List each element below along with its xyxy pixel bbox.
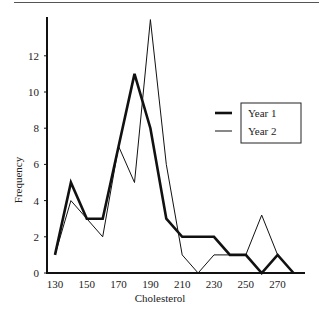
y-tick-label: 12 xyxy=(28,50,39,62)
legend-label: Year 2 xyxy=(248,125,277,137)
y-tick-label: 8 xyxy=(34,122,40,134)
x-tick-label: 150 xyxy=(79,278,96,290)
y-axis-label: Frequency xyxy=(12,156,24,203)
x-axis-label: Cholesterol xyxy=(135,292,186,304)
y-tick-label: 10 xyxy=(28,86,40,98)
y-tick-label: 0 xyxy=(34,267,40,279)
line-chart: 024681012130150170190210230250270Cholest… xyxy=(0,0,319,320)
y-tick-label: 6 xyxy=(34,158,40,170)
y-tick-label: 4 xyxy=(34,195,40,207)
x-tick-label: 250 xyxy=(238,278,255,290)
x-tick-label: 230 xyxy=(206,278,223,290)
x-tick-label: 130 xyxy=(47,278,64,290)
y-tick-label: 2 xyxy=(34,231,40,243)
series-line-year-2 xyxy=(55,20,294,273)
x-tick-label: 210 xyxy=(174,278,191,290)
legend-label: Year 1 xyxy=(248,107,277,119)
x-tick-label: 270 xyxy=(269,278,286,290)
x-tick-label: 190 xyxy=(142,278,159,290)
x-tick-label: 170 xyxy=(110,278,127,290)
